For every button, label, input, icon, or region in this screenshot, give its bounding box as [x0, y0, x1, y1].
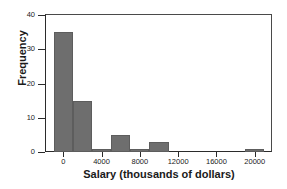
- histogram-bar: [54, 32, 73, 152]
- x-tick-label: 0: [43, 157, 83, 166]
- y-tick-label: 0: [9, 147, 35, 156]
- y-tick-mark: [38, 84, 45, 85]
- y-tick-mark: [38, 152, 45, 153]
- x-tick-label: 20000: [235, 157, 275, 166]
- x-tick-label: 12000: [158, 157, 198, 166]
- histogram-bar: [149, 142, 168, 152]
- y-tick-label: 30: [9, 44, 35, 53]
- x-tick-label: 16000: [196, 157, 236, 166]
- y-tick-mark: [38, 15, 45, 16]
- y-tick-label: 10: [9, 113, 35, 122]
- y-axis-title: Frequency: [16, 10, 28, 106]
- y-tick-label: 20: [9, 79, 35, 88]
- x-axis-title: Salary (thousands of dollars): [45, 168, 273, 180]
- x-tick-label: 4000: [82, 157, 122, 166]
- histogram-figure: Frequency 010203040 04000800012000160002…: [0, 0, 287, 189]
- y-tick-mark: [38, 118, 45, 119]
- histogram-bar: [73, 101, 92, 152]
- bars-layer: [46, 15, 272, 152]
- y-tick-mark: [38, 49, 45, 50]
- histogram-bar: [111, 135, 130, 152]
- y-tick-label: 40: [9, 10, 35, 19]
- x-tick-label: 8000: [120, 157, 160, 166]
